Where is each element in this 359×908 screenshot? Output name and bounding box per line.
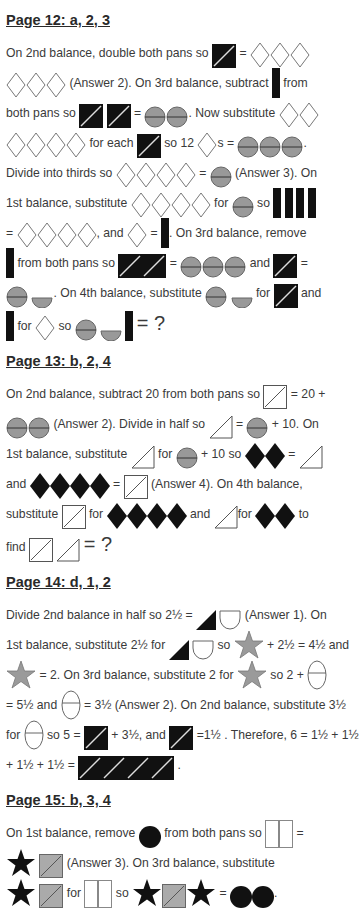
black-circle-icon — [139, 826, 161, 848]
text: =1½ . Therefore, 6 = 1½ + 1½ — [197, 728, 359, 742]
white-diamond-icon — [299, 102, 319, 128]
text: and — [301, 286, 321, 300]
gray-star-icon — [6, 660, 36, 690]
white-diamond-icon — [77, 222, 97, 248]
black-star-icon — [186, 878, 216, 908]
black-star-icon — [6, 848, 36, 878]
black-diamond-icon — [127, 503, 147, 529]
white-triangle-icon — [214, 505, 238, 529]
gray-half-circle-icon — [231, 297, 253, 308]
text: . On 3rd balance, remove — [169, 226, 307, 240]
text: s = — [217, 136, 234, 150]
black-square-slash-icon — [84, 726, 108, 750]
text: for — [256, 286, 270, 300]
gray-circle-split-icon — [205, 286, 227, 308]
white-cup-icon — [219, 610, 241, 630]
black-diamond-icon — [147, 503, 167, 529]
black-diamond-icon — [265, 443, 285, 469]
text: for — [89, 507, 103, 521]
text: from both pans so — [17, 256, 115, 270]
white-diamond-icon — [136, 162, 156, 188]
text: (Answer 3). On 3rd balance, substitute — [67, 856, 275, 870]
text: = 2. On 3rd balance, substitute 2 for — [39, 668, 233, 682]
text: (Answer 1). On — [245, 608, 327, 622]
white-oval-split-icon — [307, 660, 327, 690]
white-triangle-icon — [209, 415, 233, 439]
white-diamond-icon — [66, 132, 86, 158]
black-bar-icon — [308, 188, 316, 218]
text: On 1st balance, remove — [6, 826, 135, 840]
gray-circle-split-icon — [281, 136, 303, 158]
gray-circle-split-icon — [180, 256, 202, 278]
white-oval-split-icon — [61, 690, 81, 720]
white-diamond-icon — [270, 42, 290, 68]
white-diamond-icon — [197, 132, 217, 158]
gray-circle-split-icon — [6, 417, 28, 439]
white-diamond-icon — [46, 72, 66, 98]
white-diamond-icon — [26, 132, 46, 158]
section-title: Page 12: a, 2, 3 — [6, 0, 329, 34]
white-diamond-icon — [191, 192, 211, 218]
white-square-slash-icon — [263, 385, 287, 409]
gray-half-circle-icon — [100, 330, 122, 341]
text: , and — [97, 226, 124, 240]
text: for — [158, 447, 172, 461]
text: . On 4th balance, substitute — [53, 286, 201, 300]
white-square-slash-icon — [124, 475, 148, 499]
text: so — [116, 886, 129, 900]
black-bar-icon — [161, 218, 169, 248]
white-diamond-icon — [156, 162, 176, 188]
white-diamond-icon — [127, 222, 147, 248]
black-square-slash-icon — [273, 254, 297, 278]
white-square-slash-icon — [62, 505, 86, 529]
black-square-slash-icon — [169, 726, 193, 750]
black-square-slash-icon — [212, 44, 236, 68]
black-square-slash-icon — [79, 104, 103, 128]
black-diamond-icon — [70, 473, 90, 499]
text: so 2 + — [270, 668, 304, 682]
gray-circle-split-icon — [224, 256, 246, 278]
white-diamond-icon — [57, 222, 77, 248]
text: so — [58, 319, 71, 333]
text: from — [283, 76, 307, 90]
gray-circle-split-icon — [166, 106, 188, 128]
black-diamond-icon — [50, 473, 70, 499]
text: 1st balance, substitute 2½ for — [6, 638, 165, 652]
white-diamond-icon — [6, 132, 26, 158]
text: (Answer 2). On 3rd balance, subtract — [69, 76, 268, 90]
black-bar-icon — [296, 188, 304, 218]
text: so 12 — [164, 136, 194, 150]
text: find — [6, 540, 26, 554]
gray-circle-split-icon — [237, 136, 259, 158]
black-diamond-icon — [107, 503, 127, 529]
section-title: Page 13: b, 2, 4 — [6, 341, 329, 375]
white-diamond-icon — [35, 315, 55, 341]
section-page-15: Page 15: b, 3, 4 On 1st balance, remove … — [6, 780, 329, 908]
text: (Answer 4). On 4th balance, — [151, 477, 303, 491]
white-square-slash-icon — [29, 538, 53, 562]
black-diamond-icon — [275, 503, 295, 529]
text: and — [190, 507, 210, 521]
text: to — [299, 507, 309, 521]
gray-circle-split-icon — [246, 417, 268, 439]
white-diamond-icon — [17, 222, 37, 248]
text: so — [217, 638, 230, 652]
black-square-slash-icon — [102, 756, 126, 780]
text: . — [178, 758, 181, 772]
text: + 10. On — [272, 417, 319, 431]
gray-circle-split-icon — [210, 166, 232, 188]
white-tall-rect-icon — [98, 880, 112, 908]
black-bar-icon — [125, 311, 133, 341]
text: for — [238, 507, 252, 521]
white-diamond-icon — [176, 162, 196, 188]
white-diamond-icon — [37, 222, 57, 248]
white-diamond-icon — [46, 132, 66, 158]
text: = — [219, 886, 226, 900]
text: from both pans so — [164, 826, 262, 840]
black-square-slash-icon — [118, 254, 142, 278]
explanation: Divide 2nd balance in half so 2½ = (Answ… — [6, 600, 329, 780]
text: = 5½ and — [6, 698, 57, 712]
text: = 3½ (Answer 2). On 2nd balance, substit… — [84, 698, 346, 712]
text: Divide into thirds so — [6, 166, 112, 180]
gray-circle-split-icon — [6, 286, 28, 308]
